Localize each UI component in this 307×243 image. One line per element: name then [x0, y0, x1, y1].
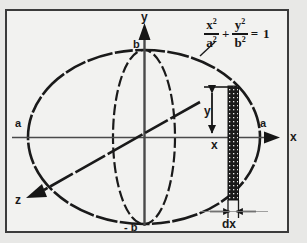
figure-root: x2 a2 + y2 b2 = 1 y x z a a b - b y x dx: [0, 0, 307, 243]
equation-rhs: 1: [263, 26, 270, 42]
y-axis-label: y: [141, 11, 148, 23]
ellipse-equation: x2 a2 + y2 b2 = 1: [203, 18, 270, 49]
strip-width-label: dx: [222, 218, 236, 230]
y-axis-line: [139, 23, 151, 226]
differential-strip: [228, 86, 239, 200]
x-axis-label: x: [290, 131, 297, 143]
exponent-2: 2: [213, 17, 217, 26]
exponent-2: 2: [213, 34, 217, 43]
equation-term-y-denominator: b2: [232, 36, 247, 50]
strip-height-label: y: [204, 105, 211, 117]
y-negative-intercept-label: - b: [124, 222, 137, 233]
exponent-2: 2: [242, 34, 246, 43]
equation-term-x-numerator: x2: [204, 18, 219, 32]
z-axis-line: [26, 102, 200, 198]
y-positive-intercept-label: b: [133, 39, 140, 50]
equation-operator: +: [222, 26, 229, 42]
exponent-2: 2: [241, 17, 245, 26]
equation-term-x-denominator: a2: [204, 36, 219, 50]
equation-term-y: y2 b2: [232, 18, 247, 49]
equation-term-x: x2 a2: [204, 18, 219, 49]
equation-term-y-numerator: y2: [233, 18, 248, 32]
strip-position-label: x: [211, 139, 218, 151]
x-positive-intercept-label: a: [260, 118, 266, 129]
x-negative-intercept-label: a: [15, 118, 21, 129]
equation-equals: =: [251, 26, 258, 42]
z-axis-label: z: [15, 194, 21, 206]
